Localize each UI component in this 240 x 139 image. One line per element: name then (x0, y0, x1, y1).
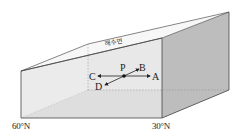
label-d: D (95, 82, 102, 92)
label-b: B (139, 63, 146, 73)
label-p: P (120, 63, 126, 73)
label-a: A (152, 72, 159, 82)
latitude-30n-label: 30°N (152, 122, 170, 131)
latitude-60n-label: 60°N (12, 122, 30, 131)
point-p-marker (122, 74, 126, 78)
